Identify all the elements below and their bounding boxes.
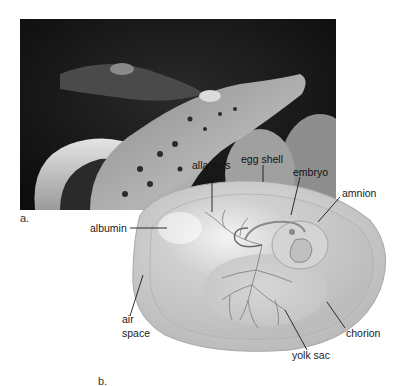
label-egg-shell: egg shell (241, 153, 283, 165)
label-amnion: amnion (342, 187, 376, 199)
label-embryo: embryo (293, 166, 328, 178)
egg-shell-shape (133, 181, 386, 351)
label-allantois: allantois (192, 159, 231, 171)
panel-a-label: a. (20, 212, 29, 224)
label-chorion: chorion (346, 327, 380, 339)
label-albumin: albumin (90, 222, 127, 234)
panel-b-label: b. (98, 375, 107, 386)
label-air-space-line1: air (122, 313, 134, 325)
label-yolk-sac: yolk sac (292, 349, 330, 361)
label-air-space-line2: space (122, 327, 150, 339)
